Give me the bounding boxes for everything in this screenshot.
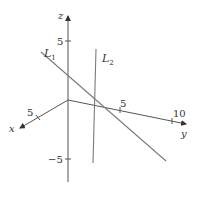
x-tick-label-5: 5 <box>27 107 33 118</box>
z-tick-label-5: 5 <box>57 36 63 47</box>
z-axis-label: z <box>57 10 64 21</box>
3d-axes-diagram: z 5 −5 x 5 y 5 10 L1 L2 <box>0 0 199 197</box>
line-L2-label: L2 <box>101 52 114 67</box>
x-tick-5 <box>36 115 40 120</box>
line-L1-label: L1 <box>43 47 56 62</box>
y-tick-label-10: 10 <box>173 108 186 119</box>
z-tick-label-neg5: −5 <box>48 154 63 165</box>
y-tick-label-5: 5 <box>120 98 126 109</box>
y-axis: y 5 10 <box>68 98 187 139</box>
x-axis-label: x <box>9 123 15 134</box>
z-axis: z 5 −5 <box>48 10 71 182</box>
y-axis-label: y <box>180 128 187 139</box>
x-axis: x 5 <box>9 100 68 134</box>
